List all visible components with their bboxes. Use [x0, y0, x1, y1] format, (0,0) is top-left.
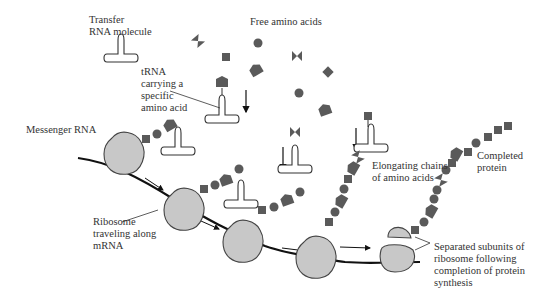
label-messenger-rna: Messenger RNA	[26, 124, 96, 136]
amino-acid-bowtie-icon	[292, 51, 302, 61]
amino-acid-square-icon	[222, 53, 230, 61]
chain-4	[325, 150, 365, 226]
trna-icon	[224, 180, 258, 208]
trna-icon	[354, 124, 388, 152]
amino-acid-bowtie-icon	[191, 34, 205, 48]
trna-icon	[161, 127, 195, 155]
amino-acid-circle-icon	[254, 39, 263, 48]
label-ribosome-traveling: Ribosome traveling along mRNA	[93, 216, 156, 252]
protein-synthesis-diagram: Transfer RNA molecule Free amino acids t…	[0, 0, 542, 298]
amino-acid-diamond-icon	[322, 66, 333, 77]
amino-acid-tag-icon	[317, 102, 332, 116]
trna-carrying-amino-acid-icon	[205, 95, 239, 123]
direction-arrow	[201, 221, 219, 229]
chain-2	[200, 165, 244, 194]
label-completed-protein: Completed protein	[477, 150, 523, 174]
amino-acid-bowtie-icon	[290, 127, 300, 137]
chain-3	[258, 188, 305, 215]
ribosome-large-subunit	[380, 245, 414, 272]
callout-bracket	[415, 237, 430, 250]
amino-acid-tag-icon	[248, 62, 264, 78]
direction-arrow	[340, 247, 370, 248]
label-separated-subunits: Separated subunits of ribosome following…	[434, 241, 525, 289]
ribosome-3	[223, 220, 263, 262]
ribosome-2	[164, 188, 204, 230]
amino-acid-circle-icon	[295, 89, 304, 98]
label-transfer-rna: Transfer RNA molecule	[89, 14, 152, 38]
ribosome-4	[296, 236, 336, 278]
ribosome-1	[104, 132, 144, 174]
ribosome-small-subunit	[388, 227, 411, 238]
label-trna-carrying: tRNA carrying a specific amino acid	[141, 66, 187, 114]
amino-acid-tag-icon	[216, 76, 228, 87]
label-elongating-chains: Elongating chains of amino acids	[372, 160, 448, 184]
amino-acid-square-icon	[364, 112, 372, 120]
label-free-amino-acids: Free amino acids	[250, 16, 322, 28]
free-trna-icon	[104, 34, 138, 62]
chain-1	[142, 117, 178, 143]
